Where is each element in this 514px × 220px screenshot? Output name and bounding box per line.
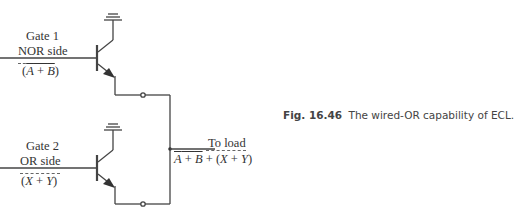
gate2-output-terminal <box>141 202 145 206</box>
var-b: B <box>47 64 55 78</box>
gate2-side-label: OR side <box>20 155 61 168</box>
figure-number: Fig. 16.46 <box>283 109 342 121</box>
gate1-ground-icon <box>104 14 122 20</box>
gate1-collector <box>98 40 113 52</box>
var-a: A <box>174 152 182 166</box>
figure-caption-text: The wired-OR capability of ECL. <box>349 109 514 121</box>
gate1-expression: (A + B) <box>22 65 59 78</box>
var-y: Y <box>241 152 248 166</box>
plus: + <box>182 152 195 166</box>
expr-paren: ) <box>248 152 252 166</box>
plus: + <box>33 174 46 188</box>
output-dash-line <box>206 150 246 151</box>
plus: + <box>228 152 241 166</box>
gate2-ground-icon <box>104 124 122 130</box>
var-x: X <box>25 174 33 188</box>
gate2-collector <box>98 150 113 162</box>
gate2-title: Gate 2 <box>26 140 59 153</box>
gate1-title: Gate 1 <box>26 30 59 43</box>
var-x: X <box>220 152 228 166</box>
plus-paren: + ( <box>203 152 220 166</box>
to-load-label: To load <box>208 137 246 150</box>
expr-paren: ) <box>55 64 59 78</box>
var-b: B <box>195 152 203 166</box>
expr-paren: ) <box>53 174 57 188</box>
output-expression: A + B + (X + Y) <box>174 153 252 166</box>
figure-caption: Fig. 16.46 The wired-OR capability of EC… <box>283 109 514 121</box>
gate2-expression: (X + Y) <box>21 175 57 188</box>
gate1-side-label: NOR side <box>18 45 68 58</box>
gate1-output-terminal <box>141 93 145 97</box>
var-a: A <box>26 64 34 78</box>
plus: + <box>34 64 47 78</box>
